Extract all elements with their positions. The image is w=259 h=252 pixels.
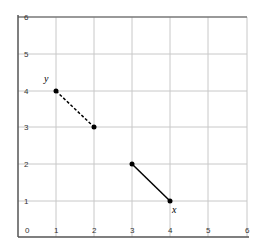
svg-text:4: 4 [24,87,29,96]
svg-text:6: 6 [24,13,29,22]
svg-text:1: 1 [24,197,29,206]
grid [18,17,247,237]
svg-text:5: 5 [206,226,211,235]
svg-text:3: 3 [130,226,135,235]
segment-x [132,164,170,201]
svg-text:5: 5 [24,50,29,59]
segment-y [56,91,94,127]
svg-text:2: 2 [24,160,29,169]
label-x: x [171,204,177,215]
point-y-end [92,125,97,130]
point-y-start [54,89,59,94]
svg-text:0: 0 [25,226,30,235]
coordinate-plane: 0 1 2 3 4 5 6 1 2 3 4 5 6 y x [0,0,259,252]
svg-text:2: 2 [92,226,97,235]
tick-labels: 0 1 2 3 4 5 6 1 2 3 4 5 6 [24,13,250,235]
svg-text:6: 6 [245,226,250,235]
point-x-end [168,199,173,204]
svg-text:4: 4 [168,226,173,235]
svg-text:3: 3 [24,123,29,132]
svg-text:1: 1 [54,226,59,235]
point-x-start [130,162,135,167]
label-y: y [43,73,49,84]
